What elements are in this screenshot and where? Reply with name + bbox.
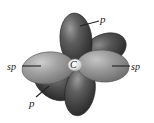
label-sp-right: sp [131, 61, 140, 72]
orbital-diagram-figure: p sp sp p C [0, 0, 154, 123]
label-sp-left: sp [7, 61, 16, 72]
label-p-top: p [100, 14, 106, 25]
label-p-bottom: p [29, 98, 35, 109]
carbon-atom-label: C [70, 60, 77, 70]
